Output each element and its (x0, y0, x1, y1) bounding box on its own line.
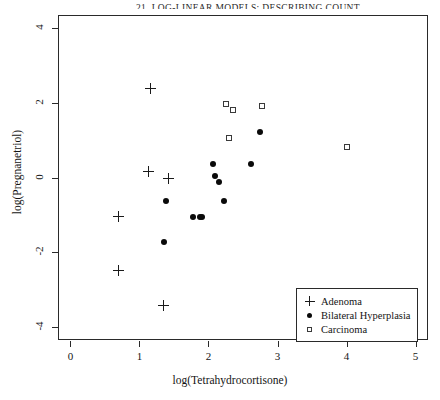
scatter-plot-figure: 012345 -4-2024 log(Tetrahydrocortisone) … (0, 0, 440, 400)
x-axis-label: log(Tetrahydrocortisone) (10, 374, 440, 386)
legend-item-label: Bilateral Hyperplasia (321, 310, 411, 321)
legend-item: Adenoma (303, 294, 411, 308)
data-point-plus (145, 83, 156, 94)
legend-item: Bilateral Hyperplasia (303, 308, 411, 322)
data-point-plus (163, 173, 174, 184)
data-point-dot (199, 214, 205, 220)
x-axis-tick (208, 341, 209, 347)
x-axis-tick (139, 341, 140, 347)
data-point-dot (216, 179, 222, 185)
data-point-dot (257, 129, 263, 135)
x-axis-tick-label: 5 (401, 350, 431, 362)
x-axis-tick-label: 0 (55, 350, 85, 362)
x-axis-tick-label: 4 (332, 350, 362, 362)
data-point-dot (190, 214, 196, 220)
legend-marker-glyph (307, 327, 312, 332)
data-point-dot (248, 161, 254, 167)
y-axis-tick-label: 0 (33, 168, 45, 186)
data-point-plus (143, 166, 154, 177)
y-axis-tick-label: -2 (33, 242, 45, 260)
x-axis-tick (278, 341, 279, 347)
data-point-plus (158, 300, 169, 311)
data-point-dot (163, 198, 169, 204)
data-point-plus (113, 265, 124, 276)
legend-marker-plus-icon (303, 295, 317, 307)
data-point-dot (210, 161, 216, 167)
legend-item: Carcinoma (303, 322, 411, 336)
y-axis-label: log(Pregnanetriol) (11, 92, 23, 252)
data-point-square (344, 144, 350, 150)
legend-item-label: Adenoma (321, 296, 362, 307)
data-point-plus (113, 211, 124, 222)
y-axis-tick-label: 4 (33, 18, 45, 36)
x-axis-tick-label: 2 (193, 350, 223, 362)
y-axis-tick-label: -4 (33, 317, 45, 335)
legend-marker-square-icon (303, 323, 317, 335)
legend: AdenomaBilateral HyperplasiaCarcinoma (296, 288, 418, 342)
data-point-square (226, 135, 232, 141)
legend-marker-glyph (307, 313, 312, 318)
data-point-square (223, 101, 229, 107)
legend-marker-dot-icon (303, 309, 317, 321)
data-point-dot (221, 198, 227, 204)
data-point-square (259, 103, 265, 109)
data-point-square (230, 107, 236, 113)
x-axis-tick (70, 341, 71, 347)
x-axis-tick-label: 1 (124, 350, 154, 362)
data-point-dot (161, 239, 167, 245)
y-axis-tick-label: 2 (33, 93, 45, 111)
x-axis-tick-label: 3 (263, 350, 293, 362)
legend-item-label: Carcinoma (321, 324, 367, 335)
data-point-dot (212, 173, 218, 179)
